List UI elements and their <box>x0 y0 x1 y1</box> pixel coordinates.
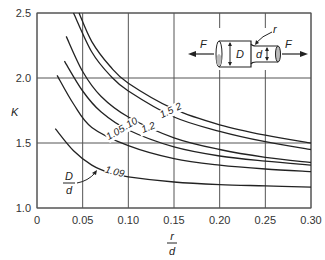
shaft-diagram: D d r F F <box>188 23 308 70</box>
x-tick-label: 0.20 <box>209 214 230 226</box>
d-label: d <box>256 48 263 60</box>
x-axis-label: r d <box>167 230 177 257</box>
curve-label: 1.09 <box>104 164 126 180</box>
svg-text:d: d <box>169 245 176 257</box>
curve-1.10 <box>64 61 311 165</box>
x-tick-label: 0.10 <box>118 214 139 226</box>
x-tick-label: 0.15 <box>163 214 184 226</box>
D-label: D <box>236 48 244 60</box>
x-tick-label: 0.05 <box>72 214 93 226</box>
x-tick-label: 0.25 <box>255 214 276 226</box>
x-tick-label: 0.30 <box>300 214 321 226</box>
arrow-left-icon <box>188 51 196 57</box>
legend-dd: D d <box>63 170 97 196</box>
svg-text:D: D <box>65 170 73 182</box>
y-axis-label: K <box>11 106 19 118</box>
svg-text:r: r <box>170 230 175 242</box>
x-tick-label: 0 <box>34 214 40 226</box>
y-tick-label: 1.0 <box>16 202 31 214</box>
y-tick-label: 2.0 <box>16 72 31 84</box>
force-left-label: F <box>200 38 208 50</box>
svg-text:d: d <box>66 184 73 196</box>
arrow-icon <box>77 173 95 183</box>
chart: 00.050.100.150.200.250.301.01.52.02.5 21… <box>0 0 325 260</box>
y-tick-label: 2.5 <box>16 7 31 19</box>
y-tick-label: 1.5 <box>16 137 31 149</box>
